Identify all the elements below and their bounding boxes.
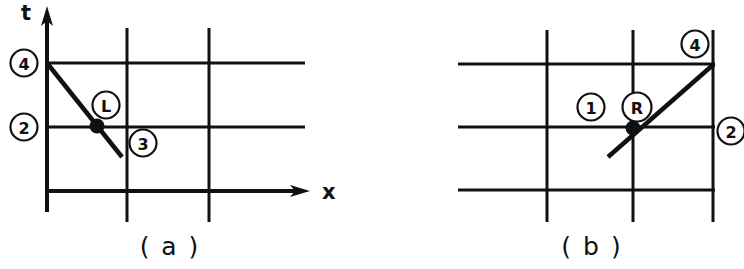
panel-a-node-4-text: 4 <box>18 55 29 74</box>
panel-a-label-state-L: L <box>93 92 120 119</box>
panel-b-state-R-text: R <box>631 99 643 118</box>
panel-b-state-1-text: 1 <box>585 99 596 118</box>
panel-b-label-state-1: 1 <box>578 94 605 121</box>
panel-a-label-node-2: 2 <box>11 114 38 141</box>
panel-b: 4 2 1 R ( b ) <box>458 30 744 261</box>
panel-a-caption: ( a ) <box>140 232 201 261</box>
panel-b-node-2-text: 2 <box>725 123 736 142</box>
panel-a-label-node-4: 4 <box>11 50 38 77</box>
panel-a-state-L-text: L <box>101 97 111 116</box>
panel-a-label-node-3: 3 <box>130 130 157 157</box>
panel-b-label-node-4: 4 <box>682 31 709 58</box>
panel-a-node-3-text: 3 <box>137 135 148 154</box>
panel-a-node-2-text: 2 <box>18 119 29 138</box>
figure-container: t x 4 2 L 3 <box>0 0 744 269</box>
panel-a-intersection-dot <box>90 119 105 134</box>
panel-b-caption: ( b ) <box>561 232 622 261</box>
panel-b-intersection-dot <box>626 121 641 136</box>
panel-a-t-axis-label: t <box>21 1 31 25</box>
panel-b-label-node-2: 2 <box>718 118 744 145</box>
panel-a: t x 4 2 L 3 <box>11 1 337 261</box>
spacetime-diagram-svg: t x 4 2 L 3 <box>0 0 744 269</box>
panel-a-x-axis-label: x <box>322 180 336 204</box>
panel-b-node-4-text: 4 <box>689 36 700 55</box>
panel-b-label-state-R: R <box>623 93 652 122</box>
